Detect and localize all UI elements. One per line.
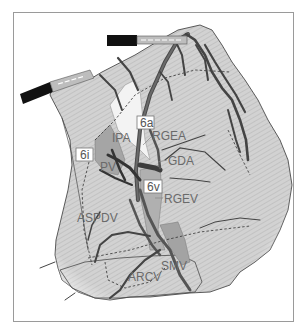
anatomy-illustration: 6a 6i 6v IPA RGEA GDA PV RGEV ASPDV ARCV… xyxy=(0,0,303,334)
station-label-6i: 6i xyxy=(76,148,93,162)
label-gda: GDA xyxy=(168,154,194,168)
label-arcv: ARCV xyxy=(128,270,161,284)
label-pv: PV xyxy=(100,160,116,174)
svg-text:6a: 6a xyxy=(140,116,154,130)
svg-text:6v: 6v xyxy=(147,180,160,194)
label-ipa: IPA xyxy=(112,131,130,145)
svg-text:6i: 6i xyxy=(80,148,89,162)
label-smv: SMV xyxy=(161,259,187,273)
label-aspdv: ASPDV xyxy=(77,211,118,225)
station-label-6a: 6a xyxy=(137,116,154,130)
label-rgev: RGEV xyxy=(164,192,198,206)
station-label-6v: 6v xyxy=(144,180,162,194)
label-rgea: RGEA xyxy=(152,129,186,143)
